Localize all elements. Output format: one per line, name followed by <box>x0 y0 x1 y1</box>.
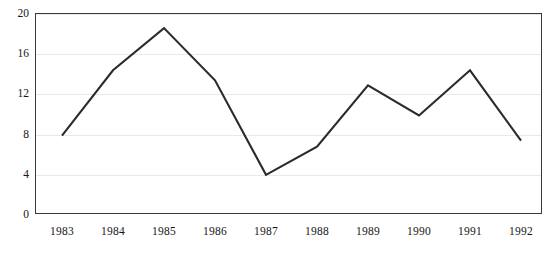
data-line-series-1 <box>62 28 521 175</box>
line-chart: 20 16 12 8 4 0 1983 1984 1985 1986 1987 … <box>0 0 554 265</box>
data-series-layer <box>0 0 554 265</box>
